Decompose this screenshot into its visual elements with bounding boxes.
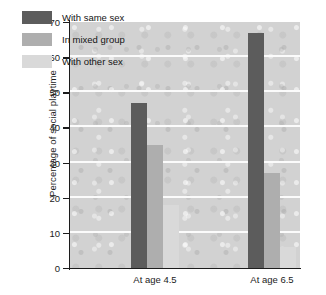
y-axis-tick-label: 0 xyxy=(20,263,60,274)
legend-item: In mixed group xyxy=(22,28,125,50)
bar xyxy=(147,145,163,268)
legend-label: With other sex xyxy=(62,56,123,67)
y-axis-tick-label: 40 xyxy=(20,122,60,133)
legend-swatch xyxy=(22,33,52,46)
y-axis-tick-mark xyxy=(63,92,70,93)
gridline xyxy=(70,90,300,92)
bar-chart: Percentage of social playtime 0102030405… xyxy=(0,0,326,295)
legend-label: With same sex xyxy=(62,12,124,23)
y-axis-tick-label: 20 xyxy=(20,192,60,203)
x-axis-line xyxy=(69,268,301,269)
y-axis-tick-mark xyxy=(63,198,70,199)
y-axis-tick-label: 10 xyxy=(20,227,60,238)
gridline xyxy=(70,125,300,127)
y-axis-tick-mark xyxy=(63,268,70,269)
bar xyxy=(264,173,280,268)
bar xyxy=(131,103,147,268)
y-axis-tick-label: 30 xyxy=(20,157,60,168)
y-axis-tick-mark xyxy=(63,127,70,128)
legend: With same sexIn mixed groupWith other se… xyxy=(22,6,125,72)
y-axis-tick-mark xyxy=(63,163,70,164)
legend-swatch xyxy=(22,11,52,24)
y-axis-tick-mark xyxy=(63,233,70,234)
gridline xyxy=(70,161,300,163)
bar xyxy=(248,33,264,268)
legend-label: In mixed group xyxy=(62,34,125,45)
bar xyxy=(163,205,179,268)
x-axis-category-label: At age 4.5 xyxy=(133,274,176,285)
x-axis-category-label: At age 6.5 xyxy=(250,274,293,285)
bar xyxy=(280,247,296,268)
legend-item: With same sex xyxy=(22,6,125,28)
legend-item: With other sex xyxy=(22,50,125,72)
legend-swatch xyxy=(22,55,52,68)
y-axis-tick-label: 50 xyxy=(20,87,60,98)
